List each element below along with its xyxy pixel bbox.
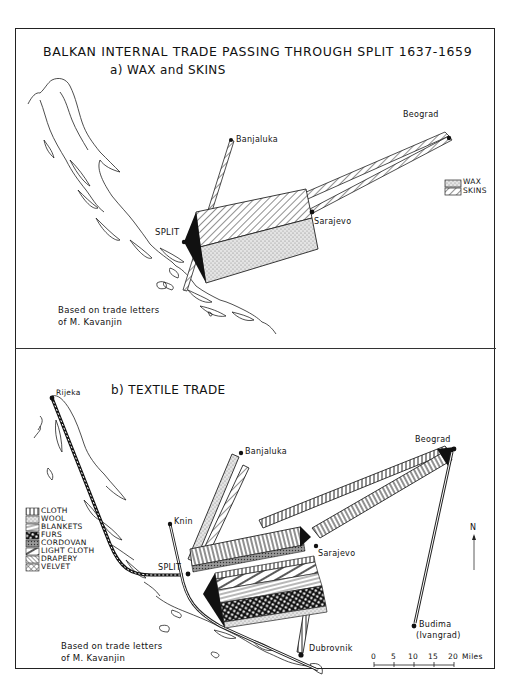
scale-unit: Miles bbox=[462, 651, 483, 663]
panel-b bbox=[26, 396, 476, 674]
place-dot-split-b bbox=[186, 572, 191, 577]
place-dot-beograd-b bbox=[452, 447, 457, 452]
place-dot-knin bbox=[168, 522, 172, 526]
panel-a-note-line1: Based on trade letters bbox=[58, 304, 159, 316]
legend-swatch-drapery bbox=[26, 556, 39, 563]
panel-a-subtitle: a) WAX and SKINS bbox=[110, 63, 226, 77]
label-budima-alt: (Ivangrad) bbox=[416, 630, 461, 642]
legend-label-velvet: VELVET bbox=[41, 563, 70, 571]
legend-swatch-wool bbox=[26, 516, 39, 523]
north-arrow-icon bbox=[472, 534, 476, 570]
legend-swatch-wax bbox=[445, 180, 461, 187]
label-dubrovnik: Dubrovnik bbox=[309, 643, 353, 655]
route-beograd-skins-1 bbox=[297, 132, 449, 202]
place-dot-rijeka bbox=[50, 396, 55, 401]
trade-map bbox=[0, 0, 522, 696]
place-dot-sarajevo bbox=[310, 210, 315, 215]
scale-tick-0: 0 bbox=[371, 651, 376, 663]
legend-swatch-light-cloth bbox=[26, 548, 39, 555]
panel-a-note-line2: of M. Kavanjin bbox=[58, 316, 122, 328]
north-label: N bbox=[470, 522, 476, 534]
legend-swatch-cordovan bbox=[26, 540, 39, 547]
label-sarajevo-a: Sarajevo bbox=[314, 216, 351, 228]
panel-a bbox=[28, 78, 461, 334]
scale-tick-5: 5 bbox=[391, 651, 396, 663]
legend-swatch-skins bbox=[445, 188, 461, 195]
sarajevo-arrowhead bbox=[300, 526, 311, 547]
place-dot-banjaluka-b bbox=[239, 451, 243, 455]
label-beograd-a: Beograd bbox=[403, 109, 439, 121]
label-beograd-b: Beograd bbox=[415, 434, 451, 446]
place-dot-budima bbox=[412, 624, 417, 629]
place-dot-beograd bbox=[447, 136, 451, 140]
label-rijeka: Rijeka bbox=[56, 387, 81, 399]
label-banjaluka-a: Banjaluka bbox=[236, 134, 278, 146]
place-dot-split bbox=[182, 240, 186, 244]
label-split-b: SPLIT bbox=[158, 562, 181, 574]
label-split-a: SPLIT bbox=[155, 226, 179, 238]
scale-tick-10: 10 bbox=[408, 651, 418, 663]
legend-swatch-blankets bbox=[26, 524, 39, 531]
place-dot-banjaluka bbox=[229, 138, 233, 142]
label-knin: Knin bbox=[174, 516, 193, 528]
legend-label-wax: WAX bbox=[463, 178, 481, 186]
legend-b-swatches bbox=[26, 508, 39, 571]
legend-swatch-cloth bbox=[26, 508, 39, 515]
map-title: BALKAN INTERNAL TRADE PASSING THROUGH SP… bbox=[43, 44, 472, 59]
legend-swatch-velvet bbox=[26, 564, 39, 571]
scale-tick-20: 20 bbox=[448, 651, 458, 663]
scale-tick-15: 15 bbox=[428, 651, 438, 663]
panel-b-subtitle: b) TEXTILE TRADE bbox=[111, 383, 226, 397]
route-beograd-skins-2 bbox=[310, 136, 452, 213]
place-dot-dubrovnik bbox=[298, 652, 303, 657]
legend-label-skins: SKINS bbox=[463, 187, 487, 195]
panel-b-note-line2: of M. Kavanjin bbox=[61, 652, 125, 664]
label-sarajevo-b: Sarajevo bbox=[318, 548, 355, 560]
legend-swatch-furs bbox=[26, 532, 39, 539]
panel-b-note-line1: Based on trade letters bbox=[61, 640, 162, 652]
label-banjaluka-b: Banjaluka bbox=[245, 446, 287, 458]
